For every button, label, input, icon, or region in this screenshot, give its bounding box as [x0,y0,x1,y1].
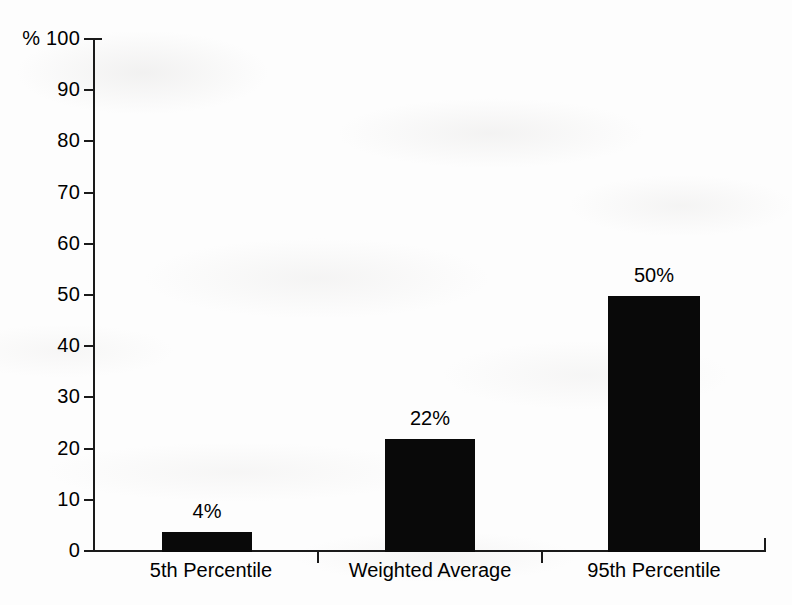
bar-value-label-weighted-average: 22% [385,408,475,428]
y-axis-tick-label-90: 90 [16,79,80,99]
y-axis-tick-label-10: 10 [16,489,80,509]
category-label-5th-percentile: 5th Percentile [105,558,317,582]
y-axis-tick-label-50: 50 [16,284,80,304]
bar-weighted-average[interactable] [385,439,475,552]
bar-value-label-95th-percentile: 50% [608,265,700,285]
y-axis-tick-70 [84,192,93,194]
y-axis-tick-label-100: % 100 [16,28,80,48]
y-axis-tick-80 [84,140,93,142]
y-axis-tick-label-20: 20 [16,438,80,458]
y-axis-tick-20 [84,448,93,450]
y-axis-tick-label-70: 70 [16,182,80,202]
bar-chart-figure: % 1009080706050403020100 4% 22% 50% 5th … [0,0,792,605]
y-axis-tick-label-60: 60 [16,233,80,253]
y-axis-tick-label-80: 80 [16,130,80,150]
y-axis-tick-0 [84,550,93,552]
y-axis-tick-40 [84,345,93,347]
y-axis-tick-90 [84,89,93,91]
category-label-weighted-average: Weighted Average [318,558,542,582]
x-axis-right-cap [764,538,766,552]
y-axis-tick-10 [84,499,93,501]
y-axis-tick-50 [84,294,93,296]
y-axis-top-cap [93,38,102,40]
y-axis-tick-label-40: 40 [16,335,80,355]
bar-95th-percentile[interactable] [608,296,700,552]
bar-5th-percentile[interactable] [162,532,252,552]
y-axis-line [93,38,95,552]
y-axis-tick-60 [84,243,93,245]
bar-value-label-5th-percentile: 4% [162,501,252,521]
y-axis-tick-label-0: 0 [16,540,80,560]
y-axis-tick-30 [84,396,93,398]
y-axis-tick-100 [84,38,93,40]
category-label-95th-percentile: 95th Percentile [542,558,766,582]
y-axis-tick-label-30: 30 [16,386,80,406]
